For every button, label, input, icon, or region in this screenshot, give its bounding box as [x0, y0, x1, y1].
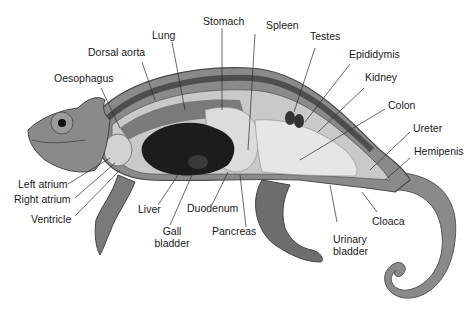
label-gall-bladder-line2: bladder	[152, 237, 192, 249]
label-lung: Lung	[152, 29, 175, 41]
hind-leg	[256, 180, 323, 262]
fore-leg	[95, 175, 135, 255]
head	[28, 98, 110, 172]
label-urinary-bladder-line1: Urinary	[333, 233, 368, 245]
label-epididymis: Epididymis	[349, 48, 400, 60]
label-hemipenis: Hemipenis	[414, 145, 464, 157]
label-gall-bladder: Gall bladder	[152, 225, 192, 249]
chameleon-illustration	[0, 0, 476, 322]
label-right-atrium: Right atrium	[14, 193, 71, 205]
label-cloaca: Cloaca	[372, 215, 405, 227]
label-urinary-bladder: Urinary bladder	[333, 233, 368, 257]
label-dorsal-aorta: Dorsal aorta	[88, 46, 145, 58]
label-gall-bladder-line1: Gall	[152, 225, 192, 237]
heart	[104, 134, 132, 166]
gall-bladder	[188, 155, 208, 169]
label-oesophagus: Oesophagus	[54, 72, 114, 84]
label-ureter: Ureter	[413, 122, 442, 134]
label-kidney: Kidney	[365, 71, 397, 83]
label-liver: Liver	[138, 203, 161, 215]
label-colon: Colon	[388, 99, 415, 111]
label-duodenum: Duodenum	[187, 202, 238, 214]
label-left-atrium: Left atrium	[18, 178, 68, 190]
label-pancreas: Pancreas	[212, 225, 256, 237]
chameleon-anatomy-diagram: Stomach Lung Spleen Testes Dorsal aorta …	[0, 0, 476, 322]
label-testes: Testes	[310, 30, 340, 42]
label-ventricle: Ventricle	[31, 213, 71, 225]
label-stomach: Stomach	[203, 15, 244, 27]
label-spleen: Spleen	[266, 19, 299, 31]
testes	[285, 111, 295, 125]
label-urinary-bladder-line2: bladder	[333, 245, 368, 257]
